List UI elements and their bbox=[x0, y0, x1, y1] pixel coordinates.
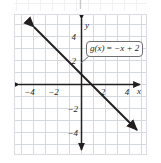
partial-grid-strip-above bbox=[14, 0, 147, 11]
axis-lines bbox=[19, 19, 140, 150]
x-tick-label-2: 2 bbox=[101, 87, 106, 97]
callout-function-name: g(x) bbox=[90, 43, 105, 53]
x-tick-label-4: 4 bbox=[125, 87, 130, 97]
callout-expression: −x + 2 bbox=[114, 43, 139, 53]
y-tick-label--4: −4 bbox=[67, 128, 78, 138]
y-tick-label-2: 2 bbox=[72, 56, 77, 66]
x-tick-label--2: −2 bbox=[48, 87, 59, 97]
function-label-callout: g(x) = −x + 2 bbox=[86, 41, 143, 57]
y-axis-label: y bbox=[84, 20, 89, 30]
x-axis-label: x bbox=[136, 86, 141, 96]
y-tick-label-4: 4 bbox=[72, 32, 77, 42]
callout-equals: = bbox=[107, 43, 112, 53]
x-tick-label--4: −4 bbox=[24, 87, 35, 97]
y-tick-label--2: −2 bbox=[67, 104, 78, 114]
coordinate-plane: −4 −2 2 4 4 2 −2 −4 x y bbox=[14, 14, 147, 155]
graph-figure: −4 −2 2 4 4 2 −2 −4 x y g(x) = −x + 2 bbox=[0, 0, 161, 163]
